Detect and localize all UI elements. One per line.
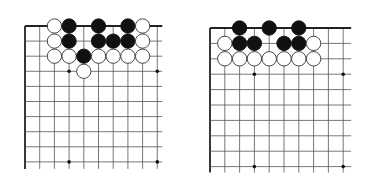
hoshi-point <box>253 165 257 169</box>
white-stone <box>232 52 246 66</box>
white-stone <box>47 34 61 48</box>
white-stone <box>135 19 149 33</box>
white-stone <box>247 52 261 66</box>
black-stone <box>292 36 306 50</box>
black-stone <box>262 21 276 35</box>
black-stone <box>121 19 135 33</box>
hoshi-point <box>341 165 345 169</box>
go-board-left <box>25 19 162 169</box>
hoshi-point <box>253 72 257 76</box>
white-stone <box>292 52 306 66</box>
white-stone <box>262 52 276 66</box>
black-stone <box>121 34 135 48</box>
hoshi-point <box>67 160 71 164</box>
white-stone <box>106 49 120 63</box>
white-stone <box>47 49 61 63</box>
black-stone <box>62 34 76 48</box>
white-stone <box>47 19 61 33</box>
black-stone <box>106 34 120 48</box>
go-board-right <box>210 21 351 173</box>
hoshi-point <box>67 70 71 74</box>
white-stone <box>62 49 76 63</box>
white-stone <box>135 34 149 48</box>
go-diagrams <box>0 0 371 188</box>
black-stone <box>91 34 105 48</box>
black-stone <box>232 36 246 50</box>
white-stone <box>77 64 91 78</box>
white-stone <box>91 49 105 63</box>
white-stone <box>277 52 291 66</box>
black-stone <box>277 36 291 50</box>
white-stone <box>218 36 232 50</box>
black-stone <box>247 36 261 50</box>
black-stone <box>292 21 306 35</box>
white-stone <box>135 49 149 63</box>
black-stone <box>232 21 246 35</box>
white-stone <box>218 52 232 66</box>
hoshi-point <box>156 70 160 74</box>
black-stone <box>62 19 76 33</box>
hoshi-point <box>341 72 345 76</box>
white-stone <box>306 52 320 66</box>
black-stone <box>91 19 105 33</box>
black-stone <box>77 49 91 63</box>
white-stone <box>306 36 320 50</box>
white-stone <box>121 49 135 63</box>
hoshi-point <box>156 160 160 164</box>
